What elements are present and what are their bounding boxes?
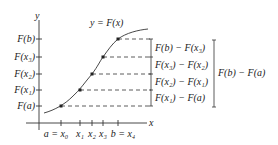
y-tick-Fa: F(a)	[16, 100, 35, 112]
diff-Fx3-Fx2: F(x₃) − F(x₂)	[154, 59, 209, 71]
curve-label: y = F(x)	[89, 17, 124, 29]
y-axis-label: y	[34, 10, 40, 21]
telescoping-sum-diagram: y x y = F(x) F(a) F(x₁) F(x₂) F(x₃) F(b)…	[0, 0, 278, 145]
y-tick-Fb: F(b)	[16, 33, 35, 45]
x-axis-label: x	[148, 117, 154, 128]
total-difference-label: F(b) − F(a)	[217, 67, 266, 79]
x-tick-labels: a = x₀ x₁ x₂ x₃ b = x₄	[44, 128, 136, 139]
y-tick-Fx2: F(x₂)	[13, 68, 35, 80]
curve-F	[44, 29, 148, 113]
x-tick-x1: x₁	[75, 128, 84, 139]
inner-brackets	[149, 39, 153, 106]
x-tick-x3: x₃	[98, 128, 107, 139]
diff-Fb-Fx3: F(b) − F(x₃)	[154, 42, 206, 54]
dashed-guides	[61, 39, 151, 106]
x-tick-x2: x₂	[87, 128, 96, 139]
diff-Fx1-Fa: F(x₁) − F(a)	[154, 92, 206, 104]
y-tick-Fx1: F(x₁)	[13, 84, 35, 96]
x-tick-a-x0: a = x₀	[44, 128, 69, 139]
diff-Fx2-Fx1: F(x₂) − F(x₁)	[154, 76, 209, 88]
outer-bracket	[212, 40, 216, 107]
x-tick-b-x4: b = x₄	[111, 128, 136, 139]
difference-labels: F(b) − F(x₃) F(x₃) − F(x₂) F(x₂) − F(x₁)…	[154, 42, 209, 104]
curve-points	[60, 38, 120, 108]
y-tick-labels: F(a) F(x₁) F(x₂) F(x₃) F(b)	[13, 33, 35, 112]
y-tick-Fx3: F(x₃)	[13, 51, 35, 63]
